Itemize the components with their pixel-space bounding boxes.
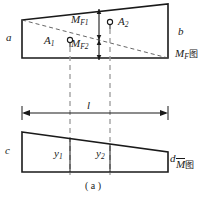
figure-drawing bbox=[0, 0, 205, 200]
label-c: c bbox=[5, 145, 10, 156]
label-a: a bbox=[6, 32, 12, 43]
label-y2-subscript: 2 bbox=[101, 152, 105, 161]
label-b: b bbox=[178, 26, 184, 37]
label-mf-diagram-title: MF图 bbox=[175, 48, 198, 60]
label-y2: y2 bbox=[96, 148, 105, 160]
label-mf-diagram-cjk: 图 bbox=[189, 49, 198, 59]
label-mbar-symbol: M bbox=[176, 158, 185, 171]
label-a2-symbol: A bbox=[118, 15, 125, 27]
label-mf1-symbol: M bbox=[71, 13, 80, 25]
label-a1-subscript: 1 bbox=[51, 39, 55, 48]
figure-caption: ( a ) bbox=[85, 181, 101, 191]
label-mbar-diagram-cjk: 图 bbox=[185, 160, 194, 170]
top-diagram-outline bbox=[22, 4, 168, 58]
label-mf-diagram-symbol: M bbox=[175, 47, 184, 59]
label-a2: A2 bbox=[118, 16, 128, 28]
label-a2-subscript: 2 bbox=[125, 20, 129, 29]
section-ordinate-line bbox=[97, 9, 102, 60]
centroid-marker-a2 bbox=[107, 19, 112, 29]
bottom-diagram-outline bbox=[22, 132, 168, 172]
label-y1-subscript: 1 bbox=[59, 152, 63, 161]
label-d: d bbox=[170, 153, 176, 164]
label-mf1: MF1 bbox=[71, 14, 88, 26]
label-a1: A1 bbox=[44, 35, 54, 47]
label-span-length: l bbox=[87, 100, 90, 111]
figure-container: a b MF1 MF2 A1 A2 MF图 l c d y1 y2 M图 ( a… bbox=[0, 0, 205, 200]
label-y1: y1 bbox=[54, 148, 63, 160]
label-a1-symbol: A bbox=[44, 34, 51, 46]
label-mbar-diagram-title: M图 bbox=[176, 158, 194, 171]
label-mf1-subscript: F1 bbox=[80, 18, 88, 27]
label-mf2-symbol: M bbox=[71, 37, 80, 49]
label-mf2-subscript: F2 bbox=[80, 42, 88, 51]
span-dimension-line bbox=[22, 106, 168, 120]
label-mf2: MF2 bbox=[71, 38, 88, 50]
